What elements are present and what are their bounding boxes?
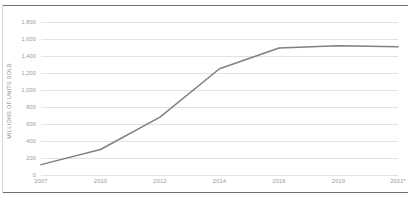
y-tick-label: 600 xyxy=(26,121,36,127)
x-tick-label: 2010 xyxy=(94,178,107,184)
gridline xyxy=(41,175,398,176)
y-tick-label: 1,200 xyxy=(22,70,37,76)
y-tick-label: 1,800 xyxy=(22,19,37,25)
y-tick-label: 1,600 xyxy=(22,36,37,42)
y-tick-label: 1,400 xyxy=(22,53,37,59)
x-tick-label: 2019 xyxy=(332,178,345,184)
series-polyline xyxy=(41,46,398,165)
data-series-line xyxy=(41,22,398,175)
x-tick-label: 2007 xyxy=(34,178,47,184)
plot-area xyxy=(41,22,398,175)
line-chart: MILLIONS OF UNITS SOLD 02004006008001,00… xyxy=(0,0,410,201)
x-tick-label: 2012 xyxy=(153,178,166,184)
x-tick-label: 2014 xyxy=(213,178,226,184)
y-tick-label: 200 xyxy=(26,155,36,161)
x-tick-label: 2021* xyxy=(390,178,406,184)
y-tick-label: 800 xyxy=(26,104,36,110)
y-tick-label: 1,000 xyxy=(22,87,37,93)
x-tick-label: 2016 xyxy=(272,178,285,184)
y-tick-label: 400 xyxy=(26,138,36,144)
